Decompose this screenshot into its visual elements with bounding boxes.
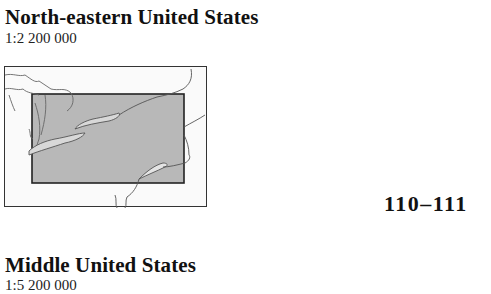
page-range[interactable]: 110–111	[384, 191, 468, 217]
entry-scale: 1:2 200 000	[5, 30, 77, 47]
entry-title: North-eastern United States	[5, 5, 259, 30]
locator-map-icon[interactable]	[4, 66, 207, 207]
entry-title: Middle United States	[5, 253, 196, 278]
entry-scale: 1:5 200 000	[5, 277, 77, 294]
